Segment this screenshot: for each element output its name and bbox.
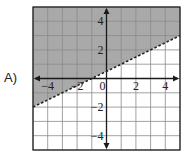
y-tick-label: 2	[98, 43, 104, 57]
x-tick-label: 4	[162, 79, 168, 93]
x-tick-label: −4	[41, 79, 54, 93]
x-tick-label: −2	[71, 79, 84, 93]
y-tick-label: 4	[98, 14, 104, 28]
inequality-graph: −4−202442−2−4	[0, 0, 188, 160]
x-tick-label: 2	[133, 79, 139, 93]
y-tick-label: −4	[91, 129, 104, 143]
y-tick-label: −2	[91, 100, 104, 114]
x-tick-label: 0	[100, 79, 106, 93]
